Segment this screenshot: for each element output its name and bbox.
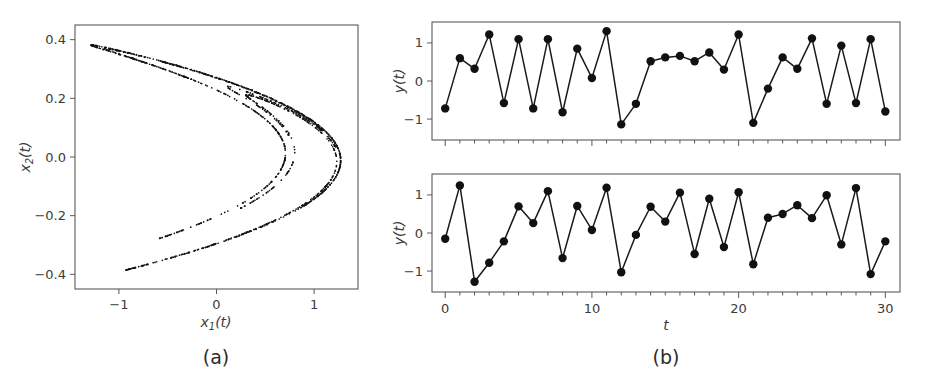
- panel-a-data-point: [262, 194, 264, 196]
- panel-a-data-point: [272, 103, 274, 105]
- panel-a-data-point: [333, 148, 335, 150]
- panel-a-data-point: [284, 214, 286, 216]
- panel-a-data-point: [231, 82, 233, 84]
- panel-a-data-point: [278, 120, 280, 122]
- panel-a-data-point: [268, 101, 270, 103]
- panel-a-data-point: [240, 234, 242, 236]
- panel-b-data-point: [705, 195, 713, 203]
- panel-b-data-point: [793, 65, 801, 73]
- panel-a-data-point: [210, 218, 212, 220]
- panel-a-data-point: [269, 114, 271, 116]
- panel-a-data-point: [283, 216, 285, 218]
- panel-b-x-tick-label: 10: [584, 301, 601, 316]
- panel-a-data-point: [253, 195, 255, 197]
- panel-a-data-point: [99, 45, 101, 47]
- panel-b-data-point: [573, 44, 581, 52]
- panel-b-data-point: [720, 65, 728, 73]
- panel-a-data-point: [291, 137, 293, 139]
- panel-a-data-point: [272, 99, 274, 101]
- panel-b-data-point: [456, 181, 464, 189]
- panel-a-data-point: [186, 252, 188, 254]
- panel-a-data-point: [125, 52, 127, 54]
- panel-b-data-point: [514, 202, 522, 210]
- panel-a-data-point: [230, 237, 232, 239]
- panel-a-data-point: [161, 237, 163, 239]
- panel-a-data-point: [152, 64, 154, 66]
- panel-a-data-point: [128, 52, 130, 54]
- panel-a-data-point: [279, 106, 281, 108]
- panel-a-data-point: [118, 50, 120, 52]
- panel-a-data-point: [152, 58, 154, 60]
- panel-b-y-tick-label: −1: [404, 264, 423, 279]
- panel-a-data-point: [176, 232, 178, 234]
- panel-a-data-point: [330, 179, 332, 181]
- panel-b-x-tick-label: 0: [441, 301, 449, 316]
- panel-a-data-point: [230, 86, 232, 88]
- panel-a-data-point: [295, 114, 297, 116]
- panel-a-data-point: [179, 231, 181, 233]
- panel-a-data-point: [335, 143, 337, 145]
- panel-a-data-point: [271, 188, 273, 190]
- panel-b-data-point: [632, 231, 640, 239]
- panel-a-data-point: [331, 177, 333, 179]
- panel-a-data-point: [275, 100, 277, 102]
- panel-a-data-point: [95, 45, 97, 47]
- panel-a-data-point: [248, 89, 250, 91]
- panel-a-data-point: [115, 49, 117, 51]
- panel-b-data-point: [734, 30, 742, 38]
- panel-b-data-point: [690, 250, 698, 258]
- panel-b-data-point: [881, 107, 889, 115]
- panel-b-top-x-ticks: [445, 140, 885, 146]
- panel-a-data-point: [251, 201, 253, 203]
- panel-a-data-point: [187, 77, 189, 79]
- panel-b-data-point: [529, 104, 537, 112]
- panel-a-data-point: [334, 172, 336, 174]
- panel-a-data-point: [256, 92, 258, 94]
- panel-a-data-point: [263, 224, 265, 226]
- panel-a-x-tick-label: 0: [212, 297, 220, 312]
- panel-a-data-point: [286, 173, 288, 175]
- panel-a-data-point: [286, 108, 288, 110]
- panel-a-data-point: [335, 154, 337, 156]
- panel-a-data-point: [162, 61, 164, 63]
- panel-a-data-point: [125, 269, 127, 271]
- panel-b-data-point: [764, 84, 772, 92]
- panel-a-data-point: [234, 98, 236, 100]
- panel-b-data-point: [866, 35, 874, 43]
- panel-a-data-point: [236, 93, 238, 95]
- panel-a-data-point: [249, 94, 251, 96]
- panel-b-data-point: [558, 108, 566, 116]
- panel-a-data-point: [303, 205, 305, 207]
- panel-a-data-point: [220, 91, 222, 93]
- panel-a-data-point: [254, 91, 256, 93]
- panel-a-data-point: [269, 190, 271, 192]
- panel-a-data-point: [326, 132, 328, 134]
- panel-b-data-point: [837, 240, 845, 248]
- panel-a-data-point: [325, 185, 327, 187]
- panel-b-data-point: [822, 100, 830, 108]
- panel-a-data-point: [270, 98, 272, 100]
- panel-a-data-point: [267, 191, 269, 193]
- panel-a-data-point: [312, 124, 314, 126]
- panel-a-data-point: [307, 117, 309, 119]
- panel-a-data-point: [93, 44, 95, 46]
- panel-a-data-point: [318, 192, 320, 194]
- panel-b-data-point: [470, 278, 478, 286]
- panel-a-data-point: [280, 122, 282, 124]
- panel-a-data-point: [147, 263, 149, 265]
- panel-a-data-point: [123, 51, 125, 53]
- panel-a-data-point: [129, 268, 131, 270]
- panel-a-data-point: [290, 107, 292, 109]
- panel-a-data-point: [339, 166, 341, 168]
- panel-a-data-point: [97, 45, 99, 47]
- panel-a-data-point: [309, 120, 311, 122]
- panel-a-data-point: [187, 68, 189, 70]
- panel-a-data-point: [249, 202, 251, 204]
- panel-a-data-point: [114, 52, 116, 54]
- panel-a-data-point: [336, 174, 338, 176]
- panel-a-data-point: [289, 212, 291, 214]
- panel-a-data-point: [206, 85, 208, 87]
- panel-b-bottom-subplot: 10−1 0102030 y(t): [391, 174, 900, 316]
- panel-a-data-point: [248, 231, 250, 233]
- panel-a-data-point: [265, 192, 267, 194]
